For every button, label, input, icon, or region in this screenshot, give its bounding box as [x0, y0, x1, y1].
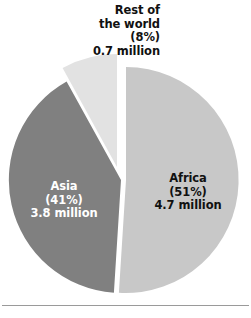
pie-slice-africa[interactable] [119, 67, 239, 293]
pie-chart-figure: Rest of the world (8%) 0.7 million Asia … [0, 0, 251, 318]
bottom-divider [2, 305, 249, 306]
callout-label-rest-of-world: Rest of the world (8%) 0.7 million [34, 4, 160, 58]
